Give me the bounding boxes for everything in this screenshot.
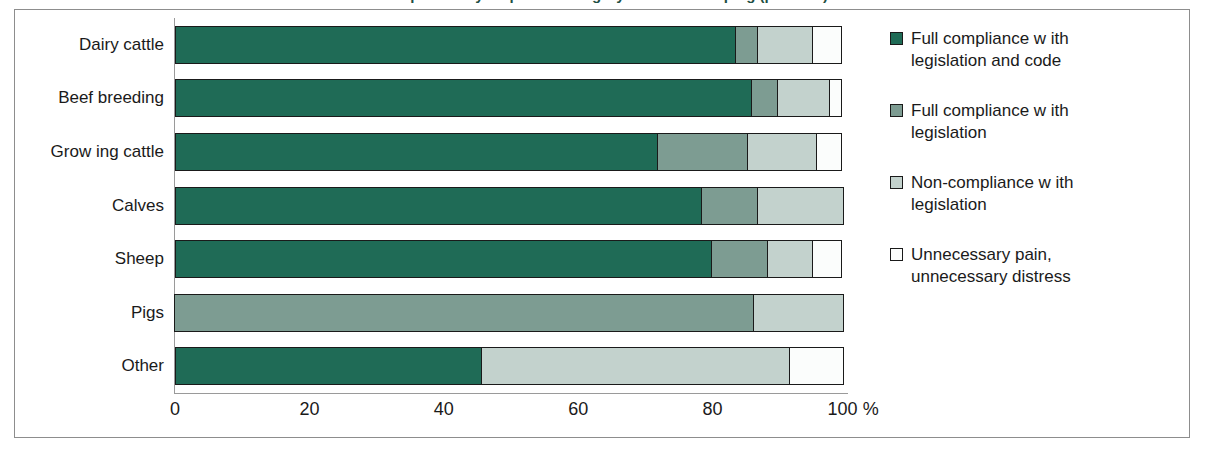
- bar-segment: [175, 26, 736, 64]
- bar-segment: [175, 347, 483, 385]
- bar-segment: [829, 79, 842, 117]
- stacked-bar: [175, 187, 847, 225]
- legend-item[interactable]: Unnecessary pain, unnecessary distress: [890, 244, 1170, 288]
- bar-segment: [481, 347, 790, 385]
- legend-label: Unnecessary pain, unnecessary distress: [911, 244, 1141, 288]
- legend-label: Full compliance w ith legislation and co…: [911, 28, 1141, 72]
- bar-segment: [747, 133, 818, 171]
- bar-row: Dairy cattle: [175, 26, 847, 64]
- x-tick-label: 60: [568, 399, 588, 420]
- x-axis-ticks: 020406080100 %: [175, 399, 847, 429]
- bar-segment: [757, 187, 844, 225]
- bar-segment: [175, 133, 659, 171]
- plot-area: Dairy cattleBeef breedingGrow ing cattle…: [175, 18, 847, 393]
- bar-segment: [175, 187, 703, 225]
- stacked-bar: [175, 347, 847, 385]
- bar-segment: [701, 187, 758, 225]
- legend-swatch-icon: [890, 32, 903, 45]
- legend-label: Non-compliance w ith legislation: [911, 172, 1141, 216]
- x-tick-label: 20: [299, 399, 319, 420]
- legend-swatch-icon: [890, 248, 903, 261]
- legend-item[interactable]: Non-compliance w ith legislation: [890, 172, 1170, 216]
- stacked-bar: [175, 294, 847, 332]
- category-label: Dairy cattle: [0, 26, 164, 64]
- bar-segment: [757, 26, 814, 64]
- category-label: Sheep: [0, 240, 164, 278]
- x-tick-label: 80: [703, 399, 723, 420]
- legend-item[interactable]: Full compliance w ith legislation: [890, 100, 1170, 144]
- legend-label: Full compliance w ith legislation: [911, 100, 1141, 144]
- legend-swatch-icon: [890, 104, 903, 117]
- category-label: Calves: [0, 187, 164, 225]
- chart-legend: Full compliance w ith legislation and co…: [890, 28, 1170, 316]
- bar-row: Pigs: [175, 294, 847, 332]
- bar-segment: [789, 347, 844, 385]
- bar-row: Beef breeding: [175, 79, 847, 117]
- bar-segment: [711, 240, 768, 278]
- bar-row: Other: [175, 347, 847, 385]
- bar-row: Grow ing cattle: [175, 133, 847, 171]
- x-tick-label: 0: [170, 399, 180, 420]
- chart-title: Compliance by inspected category of anim…: [0, 0, 1205, 3]
- bar-segment: [753, 294, 844, 332]
- bar-segment: [751, 79, 778, 117]
- bar-segment: [816, 133, 843, 171]
- stacked-bar-chart: Compliance by inspected category of anim…: [0, 0, 1205, 460]
- stacked-bar: [175, 79, 847, 117]
- bar-row: Sheep: [175, 240, 847, 278]
- legend-swatch-icon: [890, 176, 903, 189]
- bar-segment: [767, 240, 814, 278]
- bar-segment: [175, 79, 753, 117]
- x-tick-label: 100 %: [828, 399, 879, 420]
- bar-segment: [777, 79, 831, 117]
- stacked-bar: [175, 26, 847, 64]
- x-tick-label: 40: [434, 399, 454, 420]
- category-label: Grow ing cattle: [0, 133, 164, 171]
- category-label: Beef breeding: [0, 79, 164, 117]
- bar-segment: [812, 26, 842, 64]
- x-axis-line: [174, 393, 848, 394]
- category-label: Pigs: [0, 294, 164, 332]
- bar-segment: [175, 240, 713, 278]
- stacked-bar: [175, 240, 847, 278]
- bar-segment: [657, 133, 748, 171]
- legend-item[interactable]: Full compliance w ith legislation and co…: [890, 28, 1170, 72]
- chart-title-strip: Compliance by inspected category of anim…: [0, 0, 1205, 9]
- stacked-bar: [175, 133, 847, 171]
- bar-segment: [812, 240, 842, 278]
- category-label: Other: [0, 347, 164, 385]
- bar-segment: [174, 294, 755, 332]
- bar-row: Calves: [175, 187, 847, 225]
- bar-rows: Dairy cattleBeef breedingGrow ing cattle…: [175, 18, 847, 393]
- bar-segment: [735, 26, 759, 64]
